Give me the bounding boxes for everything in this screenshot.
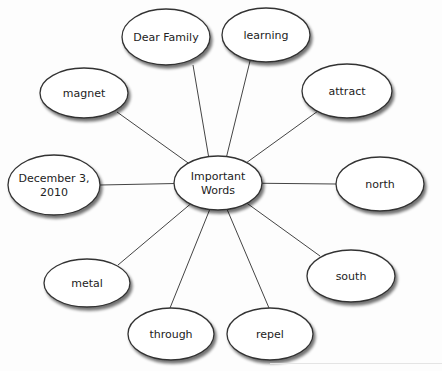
node-through-label: through [149, 328, 192, 341]
connector-december [100, 184, 174, 185]
connector-learning [227, 61, 250, 157]
node-december-label: December 3, [18, 172, 89, 185]
node-important-words-label: Important [191, 170, 246, 183]
node-through: through [128, 308, 214, 360]
node-dear-family: Dear Family [122, 9, 210, 65]
connector-attract [247, 111, 318, 163]
connector-magnet [117, 112, 188, 163]
node-attract-label: attract [329, 85, 367, 98]
node-metal-label: metal [71, 277, 103, 290]
connector-dear-family [193, 65, 209, 157]
node-important-words: ImportantWords [174, 156, 262, 210]
connector-north [262, 183, 336, 184]
node-repel-label: repel [256, 328, 284, 341]
connector-repel [227, 209, 269, 308]
connector-through [170, 210, 210, 308]
node-magnet: magnet [40, 68, 128, 118]
node-metal: metal [44, 259, 130, 307]
node-december-label: 2010 [40, 186, 68, 199]
node-south: south [307, 250, 395, 302]
node-learning: learning [222, 8, 310, 62]
node-important-words-label: Words [201, 184, 235, 197]
node-attract: attract [302, 64, 392, 118]
node-december: December 3,2010 [8, 155, 100, 215]
word-web-diagram: Dear FamilylearningmagnetattractDecember… [0, 0, 442, 371]
connector-south [247, 203, 320, 256]
node-important-words-ellipse [174, 156, 262, 210]
node-magnet-label: magnet [63, 87, 106, 100]
connector-metal [118, 204, 190, 265]
node-north-label: north [365, 178, 395, 191]
node-learning-label: learning [244, 29, 289, 42]
node-north: north [336, 157, 424, 211]
divider-line [270, 363, 442, 364]
node-dear-family-label: Dear Family [133, 31, 199, 44]
node-south-label: south [336, 270, 367, 283]
diagram-canvas: Dear FamilylearningmagnetattractDecember… [0, 0, 442, 371]
node-repel: repel [227, 308, 313, 360]
node-december-ellipse [8, 155, 100, 215]
